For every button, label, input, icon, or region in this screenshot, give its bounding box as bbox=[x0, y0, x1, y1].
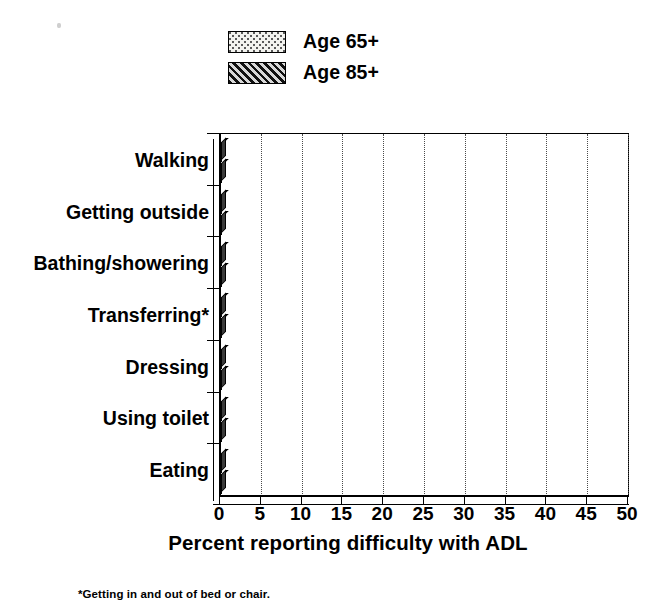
bar-fill bbox=[220, 215, 222, 235]
category-group: Getting outside bbox=[220, 186, 628, 238]
bar-age-85- bbox=[220, 318, 386, 338]
x-tick-label-35: 35 bbox=[485, 503, 525, 525]
y-axis-label: Walking bbox=[135, 148, 209, 171]
bar-fill bbox=[220, 453, 222, 473]
x-axis-title: Percent reporting difficulty with ADL bbox=[0, 531, 664, 555]
y-axis-label: Getting outside bbox=[66, 200, 209, 223]
bar-age-65- bbox=[220, 297, 289, 317]
legend-swatch-age85-icon bbox=[228, 62, 286, 84]
bar-age-65- bbox=[220, 194, 306, 214]
bar-age-85- bbox=[220, 163, 550, 183]
bar-fill bbox=[220, 246, 222, 266]
bar-fill bbox=[220, 349, 222, 369]
bar-age-65- bbox=[220, 453, 240, 473]
category-group: Eating bbox=[220, 444, 628, 496]
x-tick-label-45: 45 bbox=[566, 503, 606, 525]
legend-item-age65: Age 65+ bbox=[228, 26, 468, 57]
footnote: *Getting in and out of bed or chair. bbox=[78, 588, 270, 600]
x-tick-label-20: 20 bbox=[362, 503, 402, 525]
y-tick bbox=[207, 392, 219, 393]
x-tick-label-50: 50 bbox=[607, 503, 647, 525]
bar-age-85- bbox=[220, 215, 477, 235]
bar-age-85- bbox=[220, 370, 363, 390]
gridline-50 bbox=[628, 134, 629, 496]
y-axis-label: Dressing bbox=[126, 355, 209, 378]
category-group: Dressing bbox=[220, 341, 628, 393]
y-tick bbox=[207, 288, 219, 289]
x-axis-line bbox=[219, 495, 629, 497]
legend-label-age85: Age 85+ bbox=[303, 61, 379, 84]
bar-fill bbox=[220, 267, 222, 287]
scan-artifact-speck bbox=[57, 23, 61, 28]
bar-age-65- bbox=[220, 142, 382, 162]
bar-age-65- bbox=[220, 246, 304, 266]
x-tick-label-40: 40 bbox=[525, 503, 565, 525]
legend-label-age65: Age 65+ bbox=[303, 30, 379, 53]
bar-age-85- bbox=[220, 267, 453, 287]
bar-fill bbox=[220, 401, 222, 421]
bar-age-85- bbox=[220, 422, 339, 442]
y-axis-label: Eating bbox=[149, 459, 209, 482]
bar-fill bbox=[220, 318, 222, 338]
bar-fill bbox=[220, 370, 222, 390]
bar-fill bbox=[220, 297, 222, 317]
legend: Age 65+ Age 85+ bbox=[228, 26, 468, 88]
y-tick bbox=[207, 443, 219, 444]
bar-fill bbox=[220, 142, 222, 162]
legend-swatch-age65-icon bbox=[228, 31, 286, 53]
bar-fill bbox=[220, 422, 222, 442]
y-tick bbox=[207, 133, 219, 134]
x-tick-label-25: 25 bbox=[403, 503, 443, 525]
y-axis-label: Bathing/showering bbox=[34, 252, 210, 275]
category-group: Walking bbox=[220, 134, 628, 186]
x-tick-label-10: 10 bbox=[281, 503, 321, 525]
category-group: Bathing/showering bbox=[220, 237, 628, 289]
bar-age-85- bbox=[220, 474, 257, 494]
x-tick-label-15: 15 bbox=[321, 503, 361, 525]
x-tick-label-0: 0 bbox=[199, 503, 239, 525]
y-axis-label: Transferring* bbox=[88, 303, 209, 326]
bar-fill bbox=[220, 194, 222, 214]
y-axis-label: Using toilet bbox=[103, 407, 209, 430]
bar-fill bbox=[220, 474, 222, 494]
y-tick bbox=[207, 236, 219, 237]
category-group: Using toilet bbox=[220, 393, 628, 445]
x-tick-label-30: 30 bbox=[444, 503, 484, 525]
x-tick-label-5: 5 bbox=[240, 503, 280, 525]
y-tick bbox=[207, 185, 219, 186]
legend-item-age85: Age 85+ bbox=[228, 57, 468, 88]
plot-area: WalkingGetting outsideBathing/showeringT… bbox=[219, 133, 629, 496]
bar-fill bbox=[220, 163, 222, 183]
category-group: Transferring* bbox=[220, 289, 628, 341]
y-tick bbox=[207, 340, 219, 341]
